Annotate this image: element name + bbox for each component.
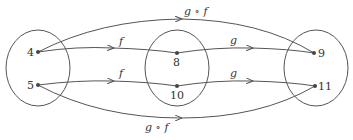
arrow-gf-5-11-tail (181, 86, 315, 118)
label-f-bottom: f (118, 67, 125, 80)
arrow-f-5-10 (38, 81, 113, 85)
label-gf-bottom: g ∘ f (145, 121, 170, 134)
point-4 (36, 50, 40, 54)
point-9 (312, 51, 316, 55)
arrow-f-4-8 (38, 48, 113, 53)
point-10 (175, 84, 179, 88)
label-9: 9 (318, 47, 325, 60)
arrow-g-10-11-tail (252, 81, 315, 86)
point-11 (313, 84, 317, 88)
arrow-g-8-9 (177, 48, 252, 53)
set-codomain (284, 30, 348, 106)
label-gf-top: g ∘ f (184, 5, 209, 18)
arrow-g-8-9-tail (252, 48, 314, 53)
label-10: 10 (170, 89, 184, 102)
arrow-f-5-10-tail (113, 81, 177, 86)
point-8 (175, 51, 179, 55)
label-8: 8 (173, 56, 180, 69)
arrow-gf-5-11 (38, 85, 181, 118)
label-4: 4 (27, 46, 34, 59)
point-5 (36, 83, 40, 87)
composition-diagram: 4 5 8 10 9 11 f f g g g ∘ f g ∘ f (0, 0, 353, 140)
arrow-g-10-11 (177, 81, 252, 86)
label-f-top: f (118, 35, 125, 48)
arrow-f-4-8-tail (113, 48, 177, 53)
label-5: 5 (27, 79, 34, 92)
label-g-top: g (230, 34, 237, 47)
label-11: 11 (318, 80, 332, 93)
label-g-bottom: g (230, 67, 237, 80)
